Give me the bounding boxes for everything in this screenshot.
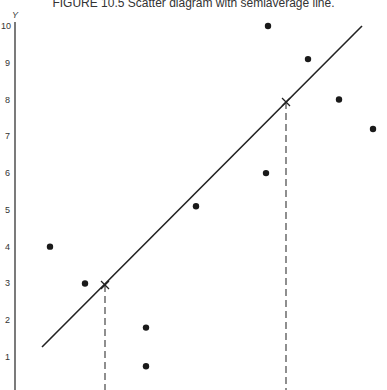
y-tick-label: 10	[1, 21, 11, 31]
y-tick-label: 8	[5, 95, 10, 105]
y-ticks: 10987654321	[1, 21, 11, 362]
data-point	[305, 56, 311, 62]
y-axis-label: Y	[12, 10, 19, 20]
y-tick-label: 4	[5, 242, 10, 252]
data-point	[143, 324, 149, 330]
data-point	[265, 23, 271, 29]
data-point	[263, 170, 269, 176]
y-tick-label: 7	[5, 131, 10, 141]
data-points	[47, 23, 376, 370]
data-point	[143, 363, 149, 369]
semiaverage-line	[42, 26, 362, 347]
scatter-plot: Y 10987654321	[0, 0, 387, 390]
y-tick-label: 5	[5, 205, 10, 215]
y-tick-label: 1	[5, 352, 10, 362]
y-tick-label: 2	[5, 315, 10, 325]
data-point	[82, 280, 88, 286]
data-point	[370, 126, 376, 132]
data-point	[47, 243, 53, 249]
y-tick-label: 6	[5, 168, 10, 178]
y-tick-label: 3	[5, 278, 10, 288]
data-point	[336, 96, 342, 102]
data-point	[193, 203, 199, 209]
y-tick-label: 9	[5, 58, 10, 68]
